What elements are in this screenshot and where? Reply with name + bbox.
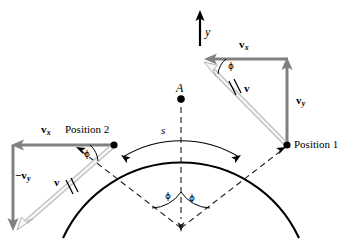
arc-length-label: s — [161, 125, 165, 136]
vx-right-label-sub: x — [245, 43, 249, 52]
physics-vector-diagram: y A s Position 1 Position 2 vx vy v ϕ vx… — [0, 0, 358, 240]
vy-left-label-base: −v — [15, 169, 27, 181]
vx-right-label-base: v — [239, 38, 245, 50]
arc-s-arrowhead-right — [231, 155, 241, 163]
point-a-label: A — [176, 82, 183, 94]
v-left-vector — [17, 146, 113, 230]
phi-center-right-label: ϕ — [189, 194, 195, 203]
vy-right-label-base: v — [296, 94, 302, 106]
v-right-vector — [204, 62, 286, 144]
v-left-label: v — [54, 177, 60, 188]
vx-left-label-base: v — [41, 123, 47, 135]
phi-arc-right-vector — [218, 59, 226, 74]
vy-right-label: vy — [296, 95, 305, 108]
vx-right-label: vx — [239, 39, 249, 52]
position-2-label: Position 2 — [65, 124, 109, 135]
v-right-label: v — [244, 83, 250, 94]
y-axis-label: y — [205, 26, 210, 38]
diagram-canvas — [0, 0, 358, 240]
phi-left-vector-label: ϕ — [84, 150, 90, 159]
vertical-radius-arrowhead — [178, 222, 185, 232]
point-a-dot — [177, 95, 185, 103]
phi-right-vector-label: ϕ — [228, 62, 234, 71]
position-1-dot — [283, 141, 290, 148]
vx-left-label: vx — [41, 124, 51, 137]
arc-s-arrowhead-left — [121, 155, 131, 163]
vy-left-label: −vy — [15, 170, 31, 183]
phi-center-left-label: ϕ — [165, 192, 171, 201]
position-2-dot — [110, 141, 117, 148]
radius-to-position-1-dashed — [181, 150, 282, 228]
vx-left-label-sub: x — [47, 128, 51, 137]
position-1-label: Position 1 — [294, 139, 338, 150]
vy-right-label-sub: y — [302, 99, 306, 108]
vy-left-label-sub: y — [27, 174, 31, 183]
phi-arc-center-right — [181, 192, 210, 208]
v-left-shaft-inner — [26, 146, 113, 222]
